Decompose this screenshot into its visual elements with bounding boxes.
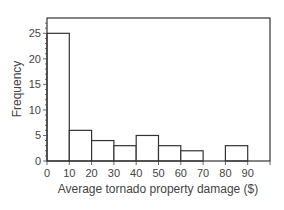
histogram-bar [92,141,114,161]
x-tick-label: 90 [242,167,254,179]
histogram-bar [225,146,247,161]
y-axis: 0510152025 [29,23,47,167]
x-tick-label: 10 [63,167,75,179]
x-tick-label: 30 [108,167,120,179]
x-tick-label: 0 [44,167,50,179]
x-axis: 0102030405060708090 [44,161,270,179]
y-tick-label: 25 [29,27,41,39]
x-tick-label: 60 [175,167,187,179]
histogram-bar [159,146,181,161]
x-axis-label: Average tornado property damage ($) [58,182,259,196]
histogram-bar [114,146,136,161]
y-tick-label: 5 [35,129,41,141]
x-tick-label: 20 [85,167,97,179]
histogram-bar [47,33,69,161]
histogram-chart: 0510152025 0102030405060708090 Frequency… [0,0,284,210]
y-tick-label: 10 [29,104,41,116]
histogram-bar [181,151,203,161]
bars [47,33,248,161]
y-tick-label: 20 [29,53,41,65]
x-tick-label: 70 [197,167,209,179]
y-tick-label: 0 [35,155,41,167]
x-tick-label: 40 [130,167,142,179]
y-axis-label: Frequency [10,61,24,118]
x-tick-label: 50 [152,167,164,179]
histogram-bar [69,130,91,161]
x-tick-label: 80 [219,167,231,179]
histogram-bar [136,135,158,161]
y-tick-label: 15 [29,78,41,90]
